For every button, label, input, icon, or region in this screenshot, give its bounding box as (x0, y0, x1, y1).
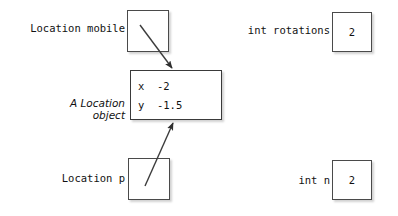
variable-box-p[interactable] (128, 158, 170, 200)
variable-declaration-rotations: int rotations (215, 24, 330, 36)
variable-box-mobile[interactable] (127, 10, 169, 52)
variable-value-n: 2 (332, 174, 372, 186)
variable-declaration-mobile: Location mobile (10, 22, 125, 34)
object-field-x: x -2 (138, 80, 170, 93)
variable-declaration-p: Location p (10, 172, 125, 184)
object-caption-line1: A Location (45, 97, 125, 110)
variable-value-rotations: 2 (332, 26, 372, 38)
object-box-location[interactable] (130, 70, 222, 120)
variable-declaration-n: int n (235, 174, 330, 186)
object-caption-line2: object (45, 109, 125, 122)
diagram-canvas: Location mobile int rotations 2 A Locati… (0, 0, 398, 216)
object-field-y: y -1.5 (138, 99, 182, 112)
